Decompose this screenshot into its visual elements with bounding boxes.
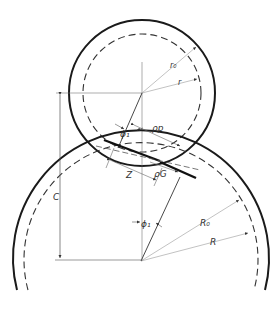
label-c: C: [53, 192, 60, 202]
label-r0: r₀: [170, 61, 177, 70]
R-radius-line: [141, 233, 248, 261]
label-phi1-top: ϕ₁: [120, 129, 130, 139]
R0-radius-line: [141, 200, 239, 261]
gear-pitch-circle: [24, 143, 258, 290]
label-rho-g: ρG: [154, 169, 167, 179]
label-z: Z: [125, 170, 133, 180]
label-phi1-bottom: ϕ₁: [141, 219, 151, 229]
label-R: R: [210, 237, 216, 247]
z-dimension: [110, 160, 156, 180]
label-r: r: [178, 78, 182, 87]
pinion-base-radius-line: [118, 93, 142, 148]
label-rho-p: ρp: [152, 123, 164, 133]
label-R0: R₀: [200, 218, 210, 228]
gear-mesh-diagram: r₀ r ρp ϕ₁ ρG Z C ϕ₁ R₀ R: [0, 0, 275, 311]
